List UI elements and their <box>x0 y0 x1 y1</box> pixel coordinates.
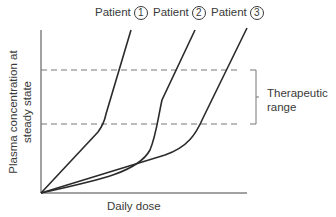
patient-1-label: Patient 1 <box>95 6 148 20</box>
patient-1-curve <box>41 30 131 193</box>
range-label-line1: Therapeutic <box>267 86 328 100</box>
therapeutic-range-label: Therapeutic range <box>267 86 328 115</box>
patient-3-number-circle: 3 <box>250 6 264 20</box>
y-axis-label-line2: steady state <box>20 50 34 173</box>
patient-3-label: Patient 3 <box>211 6 264 20</box>
patient-word: Patient <box>95 7 131 19</box>
patient-2-label: Patient 2 <box>153 6 206 20</box>
patient-1-number-circle: 1 <box>134 6 148 20</box>
patient-2-number-circle: 2 <box>192 6 206 20</box>
y-axis-label: Plasma concentration at steady state <box>6 50 35 173</box>
patient-word: Patient <box>153 7 189 19</box>
x-axis-label: Daily dose <box>107 201 161 213</box>
therapeutic-range-bracket <box>250 70 259 124</box>
patient-word: Patient <box>211 7 247 19</box>
y-axis-label-line1: Plasma concentration at <box>6 50 20 173</box>
range-label-line2: range <box>267 100 328 114</box>
patient-3-curve <box>41 28 247 193</box>
